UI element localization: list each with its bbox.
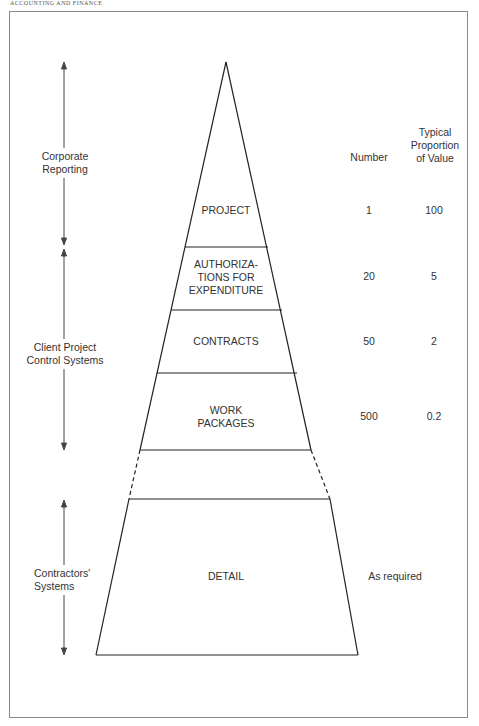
level-detail: DETAIL [176, 570, 276, 583]
side-label-contractors-systems: Contractors' Systems [34, 565, 96, 595]
detail-as-required: As required [360, 570, 430, 583]
level-project: PROJECT [186, 204, 266, 217]
client-project-control-text: Client Project Control Systems [26, 341, 103, 366]
number-contracts: 50 [354, 335, 384, 348]
proportion-afe: 5 [414, 270, 454, 283]
level-afe: AUTHORIZA- TIONS FOR EXPENDITURE [176, 258, 276, 297]
column-header-proportion: Typical Proportion of Value [400, 126, 470, 165]
number-project: 1 [354, 204, 384, 217]
number-afe: 20 [354, 270, 384, 283]
level-contracts: CONTRACTS [176, 335, 276, 348]
side-label-corporate-reporting: Corporate Reporting [36, 148, 94, 178]
pyramid-right-edge [226, 62, 311, 450]
pyramid-right-dashed [311, 450, 330, 499]
pyramid-left-edge [140, 62, 226, 450]
proportion-work-packages: 0.2 [414, 410, 454, 423]
contractors-systems-text: Contractors' Systems [34, 567, 90, 592]
column-header-number: Number [344, 151, 394, 164]
detail-left-edge [96, 499, 129, 655]
detail-right-edge [330, 499, 358, 655]
pyramid-left-dashed [129, 450, 140, 499]
level-work-packages: WORK PACKAGES [176, 404, 276, 430]
corporate-reporting-text: Corporate Reporting [42, 150, 89, 175]
side-label-client-project-control: Client Project Control Systems [20, 339, 110, 369]
proportion-contracts: 2 [414, 335, 454, 348]
proportion-project: 100 [414, 204, 454, 217]
number-work-packages: 500 [354, 410, 384, 423]
